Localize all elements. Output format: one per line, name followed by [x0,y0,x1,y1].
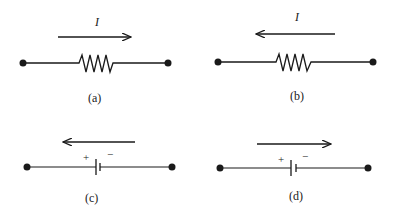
minus-label-d: − [302,150,308,162]
panel-d: + − (d) [217,144,372,203]
panel-a: I (a) [20,15,172,105]
caption-c: (c) [85,191,98,205]
battery-d [220,160,368,176]
resistor-b [218,54,373,71]
panel-c: + − (c) [24,142,176,205]
caption-d: (d) [289,189,303,203]
caption-a: (a) [88,91,101,105]
current-label-b: I [294,10,300,24]
resistor-a [23,55,168,72]
minus-label-c: − [107,148,113,160]
plus-label-d: + [278,153,284,165]
current-label-a: I [94,15,100,29]
circuit-diagram: I (a) I (b) + − (c) + − [0,0,395,216]
panel-b: I (b) [215,10,377,103]
plus-label-c: + [83,151,89,163]
caption-b: (b) [290,89,304,103]
battery-c [27,159,172,175]
